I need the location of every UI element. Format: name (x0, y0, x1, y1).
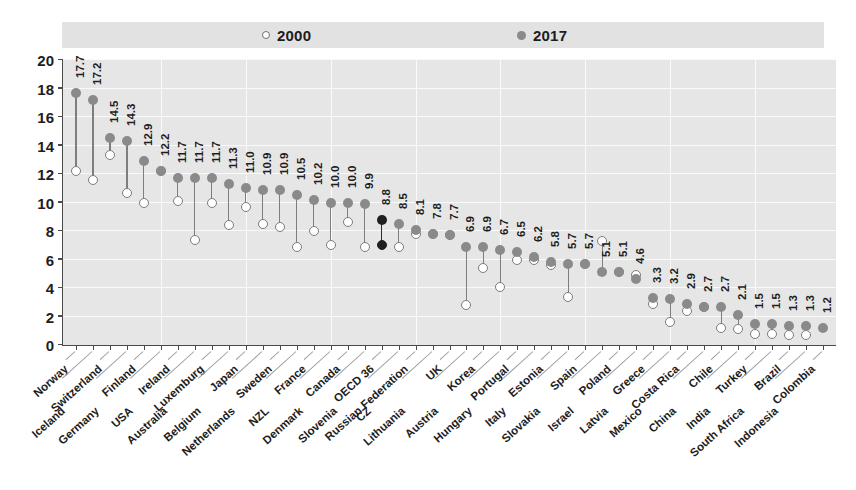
data-point-2000[interactable] (224, 220, 234, 230)
data-point-2000[interactable] (122, 188, 132, 198)
x-axis-category-label[interactable]: NZL (246, 405, 271, 429)
data-point-2017[interactable] (614, 267, 624, 277)
data-value-label: 7.7 (448, 204, 460, 220)
data-point-2017[interactable] (495, 245, 505, 255)
data-point-2000[interactable] (241, 202, 251, 212)
data-point-2000[interactable] (767, 329, 777, 339)
data-point-2000[interactable] (360, 242, 370, 252)
data-point-2017[interactable] (207, 173, 217, 183)
data-point-2017[interactable] (733, 310, 743, 320)
x-axis-category-label[interactable]: Italy (483, 405, 508, 429)
data-point-2017[interactable] (71, 88, 81, 98)
data-point-2017[interactable] (326, 198, 336, 208)
data-point-2000[interactable] (139, 198, 149, 208)
x-axis-tick-mark (93, 345, 94, 350)
data-point-2017[interactable] (631, 274, 641, 284)
data-point-2000[interactable] (665, 317, 675, 327)
data-point-2017[interactable] (716, 302, 726, 312)
data-point-2000[interactable] (292, 242, 302, 252)
data-point-2017[interactable] (682, 299, 692, 309)
legend-item-2017[interactable]: 2017 (517, 22, 567, 48)
data-point-2000[interactable] (343, 217, 353, 227)
data-point-2017[interactable] (750, 319, 760, 329)
x-axis-tick-mark (127, 345, 128, 350)
data-point-2017[interactable] (343, 198, 353, 208)
data-point-2017[interactable] (597, 267, 607, 277)
data-value-label: 5.1 (600, 241, 612, 257)
data-point-2017[interactable] (292, 190, 302, 200)
data-point-2000[interactable] (190, 235, 200, 245)
x-axis-category-label[interactable]: Mexico (607, 405, 644, 440)
x-axis-category-label[interactable]: Brazil (752, 363, 783, 393)
data-point-2000[interactable] (716, 323, 726, 333)
data-value-label: 6.5 (515, 221, 527, 237)
data-point-2000[interactable] (173, 196, 183, 206)
data-value-label: 5.1 (617, 241, 629, 257)
data-point-2000[interactable] (275, 222, 285, 232)
data-point-2017[interactable] (445, 230, 455, 240)
x-axis-tick-mark (382, 345, 383, 350)
category-leader-line (65, 351, 75, 360)
data-point-2000[interactable] (478, 263, 488, 273)
data-point-2017[interactable] (563, 259, 573, 269)
x-axis-category-label[interactable]: USA (109, 405, 135, 430)
x-axis-category-label[interactable]: India (684, 405, 712, 432)
data-point-2000[interactable] (105, 150, 115, 160)
category-leader-line (609, 351, 619, 360)
data-point-2017[interactable] (377, 215, 387, 225)
data-point-2017[interactable] (818, 323, 828, 333)
data-point-2017[interactable] (241, 183, 251, 193)
data-point-2017[interactable] (309, 195, 319, 205)
data-point-2000[interactable] (461, 300, 471, 310)
data-point-2017[interactable] (173, 173, 183, 183)
data-point-2017[interactable] (190, 173, 200, 183)
data-point-2000[interactable] (563, 292, 573, 302)
data-point-2000[interactable] (750, 329, 760, 339)
data-point-2000[interactable] (495, 282, 505, 292)
x-axis-category-label[interactable]: Chile (686, 363, 715, 391)
data-point-2017[interactable] (699, 302, 709, 312)
x-axis-category-label[interactable]: Sweden (233, 363, 273, 401)
x-axis-category-label[interactable]: Israel (546, 405, 576, 434)
data-point-2000[interactable] (801, 330, 811, 340)
data-point-2017[interactable] (801, 321, 811, 331)
data-point-2017[interactable] (411, 225, 421, 235)
data-point-2017[interactable] (258, 185, 268, 195)
data-point-2017[interactable] (88, 95, 98, 105)
data-value-label: 10.5 (295, 158, 307, 180)
data-point-2017[interactable] (665, 294, 675, 304)
x-axis-category-label[interactable]: China (647, 405, 679, 435)
legend-item-2000[interactable]: 2000 (262, 22, 311, 48)
data-point-2000[interactable] (784, 330, 794, 340)
data-point-2000[interactable] (71, 166, 81, 176)
data-point-2017[interactable] (580, 259, 590, 269)
data-point-2017[interactable] (478, 242, 488, 252)
data-point-2000[interactable] (309, 226, 319, 236)
data-point-2017[interactable] (275, 185, 285, 195)
data-point-2000[interactable] (88, 175, 98, 185)
y-axis-tick-label: 2 (28, 308, 54, 325)
data-point-2000[interactable] (394, 242, 404, 252)
data-point-2017[interactable] (224, 179, 234, 189)
data-point-2000[interactable] (258, 219, 268, 229)
data-point-2000[interactable] (733, 324, 743, 334)
x-axis-category-label[interactable]: Spain (548, 363, 579, 393)
data-point-2017[interactable] (461, 242, 471, 252)
data-point-2017[interactable] (360, 199, 370, 209)
data-point-2000[interactable] (326, 240, 336, 250)
data-point-2017[interactable] (105, 133, 115, 143)
data-point-2000[interactable] (207, 198, 217, 208)
data-point-2017[interactable] (122, 136, 132, 146)
data-point-2000[interactable] (377, 240, 387, 250)
y-axis-tick-mark (58, 230, 63, 232)
data-point-2017[interactable] (428, 229, 438, 239)
data-point-2017[interactable] (767, 319, 777, 329)
data-point-2017[interactable] (156, 166, 166, 176)
data-point-2017[interactable] (139, 156, 149, 166)
data-value-label: 1.2 (821, 297, 833, 313)
data-point-2017[interactable] (784, 321, 794, 331)
data-value-label: 11.7 (176, 142, 188, 164)
data-point-2017[interactable] (394, 219, 404, 229)
data-point-2017[interactable] (512, 247, 522, 257)
x-axis-category-label[interactable]: Latvia (578, 405, 611, 436)
